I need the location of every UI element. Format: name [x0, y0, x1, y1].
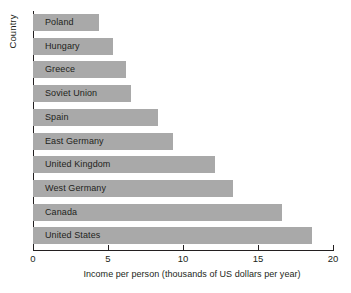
bar-category-label: United Kingdom — [45, 156, 110, 173]
x-axis-tick — [108, 245, 109, 251]
bar-category-label: West Germany — [45, 180, 106, 197]
bar-row: Hungary — [33, 38, 333, 55]
bar-category-label: Greece — [45, 61, 75, 78]
bar-category-label: Hungary — [45, 38, 80, 55]
plot-area: PolandHungaryGreeceSoviet UnionSpainEast… — [33, 12, 333, 250]
bar-row: Canada — [33, 204, 333, 221]
bar-category-label: Spain — [45, 109, 69, 126]
x-axis-tick-label: 0 — [30, 253, 35, 264]
bar-row: Poland — [33, 14, 333, 31]
bar-row: Spain — [33, 109, 333, 126]
bar-row: East Germany — [33, 133, 333, 150]
x-axis-tick — [333, 245, 334, 251]
x-axis-title: Income per person (thousands of US dolla… — [33, 269, 351, 279]
bar-category-label: East Germany — [45, 133, 104, 150]
bar-chart: Country PolandHungaryGreeceSoviet UnionS… — [0, 0, 351, 293]
bar-row: Soviet Union — [33, 85, 333, 102]
bar-category-label: Soviet Union — [45, 85, 97, 102]
x-axis-tick-label: 5 — [105, 253, 110, 264]
x-axis-tick — [183, 245, 184, 251]
bar-category-label: Poland — [45, 14, 74, 31]
x-axis-tick-label: 20 — [328, 253, 339, 264]
x-axis-tick-label: 10 — [178, 253, 189, 264]
x-axis-tick-label: 15 — [253, 253, 264, 264]
bar-row: West Germany — [33, 180, 333, 197]
x-axis-tick — [33, 245, 34, 251]
bar-row: United States — [33, 227, 333, 244]
y-axis-title-text: Country — [8, 15, 19, 49]
bar-category-label: Canada — [45, 204, 77, 221]
y-axis-title: Country — [0, 0, 26, 240]
bar-row: Greece — [33, 61, 333, 78]
bar-category-label: United States — [45, 227, 100, 244]
x-axis-tick — [258, 245, 259, 251]
bar-row: United Kingdom — [33, 156, 333, 173]
